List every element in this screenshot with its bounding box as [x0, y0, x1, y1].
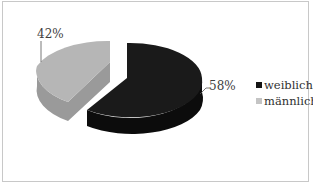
pie-chart: 42% 58% weiblich männlich — [0, 0, 313, 186]
legend-swatch-maennlich — [256, 98, 262, 104]
legend: weiblich männlich — [256, 78, 313, 108]
legend-swatch-weiblich — [256, 82, 262, 88]
legend-label-maennlich: männlich — [264, 94, 313, 108]
data-label-maennlich: 42% — [37, 27, 64, 41]
data-label-weiblich: 58% — [209, 79, 236, 93]
legend-label-weiblich: weiblich — [264, 78, 313, 92]
